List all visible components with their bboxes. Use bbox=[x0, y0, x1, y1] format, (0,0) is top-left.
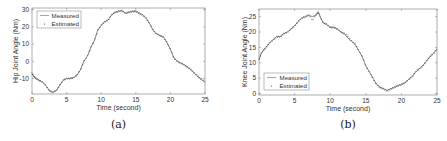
y-tick-label: 15 bbox=[249, 44, 257, 51]
x-tick-label: 10 bbox=[327, 97, 335, 104]
legend-measured-b: Measured bbox=[279, 74, 307, 81]
y-tick-label: 10 bbox=[22, 40, 30, 47]
x-tick-label: 0 bbox=[30, 96, 34, 103]
y-axis-label-b: Knee Joint Angle (Nm) bbox=[241, 17, 249, 87]
y-tick-label: 10 bbox=[249, 59, 257, 66]
y-tick-label: 20 bbox=[249, 28, 257, 35]
y-axis-label-a: Hip Joint Angle (Nm) bbox=[12, 19, 20, 83]
y-tick-label: 25 bbox=[249, 13, 257, 20]
x-axis-label-b: Time (second) bbox=[326, 105, 370, 113]
x-tick-label: 5 bbox=[293, 97, 297, 104]
x-tick-label: 20 bbox=[167, 96, 175, 103]
y-tick-label: 0 bbox=[252, 90, 256, 97]
caption-a: (a) bbox=[111, 118, 126, 131]
legend-a: Measured Estimated bbox=[37, 11, 81, 28]
x-tick-label: 5 bbox=[65, 96, 69, 103]
legend-measured-a: Measured bbox=[51, 12, 79, 19]
y-tick-label: 30 bbox=[22, 6, 30, 13]
caption-b: (b) bbox=[340, 118, 356, 131]
y-tick-label: 5 bbox=[252, 74, 256, 81]
legend-b: Measured Estimated bbox=[264, 73, 309, 90]
legend-estimated-b: Estimated bbox=[279, 82, 307, 89]
x-tick-label: 15 bbox=[362, 97, 370, 104]
x-tick-label: 0 bbox=[257, 97, 261, 104]
x-tick-label: 20 bbox=[398, 97, 406, 104]
figure: -100102030 0510152025 Time (second) Hip … bbox=[0, 0, 447, 141]
y-tick-label: -10 bbox=[20, 75, 30, 82]
y-tick-label: 20 bbox=[22, 23, 30, 30]
x-tick-label: 15 bbox=[132, 96, 140, 103]
x-tick-label: 25 bbox=[201, 96, 209, 103]
legend-estimated-a: Estimated bbox=[51, 20, 79, 27]
x-tick-label: 25 bbox=[433, 97, 441, 104]
chart-knee-joint-angle: 0510152025 0510152025 Time (second) Knee… bbox=[241, 9, 441, 131]
x-tick-label: 10 bbox=[98, 96, 106, 103]
chart-hip-joint-angle: -100102030 0510152025 Time (second) Hip … bbox=[12, 6, 209, 131]
y-tick-label: 0 bbox=[25, 58, 29, 65]
x-axis-label-a: Time (second) bbox=[96, 104, 140, 112]
